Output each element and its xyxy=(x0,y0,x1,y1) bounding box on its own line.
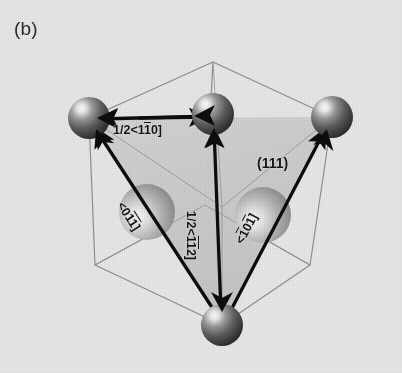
label-burgers-vertical-bar2: 1 xyxy=(184,242,198,249)
label-burgers-top-text: 1/2<1 xyxy=(113,123,144,137)
label-burgers-top-bar: 1 xyxy=(144,123,151,137)
label-burgers-top: 1/2<110] xyxy=(113,123,162,137)
diagram-canvas xyxy=(0,0,402,373)
label-plane-111: (111) xyxy=(257,155,288,171)
label-burgers-top-tail: 0] xyxy=(151,123,162,137)
panel-label: (b) xyxy=(14,18,38,40)
label-burgers-vertical-tail: 2] xyxy=(184,249,198,260)
atom-corner-top-right xyxy=(311,96,353,138)
crystal-structure-figure: (b) 1/2<110] (111) <011] <101] 1/2<112] xyxy=(0,0,402,373)
label-burgers-vertical: 1/2<112] xyxy=(184,211,198,260)
label-burgers-vertical-text: 1/2< xyxy=(184,211,198,236)
